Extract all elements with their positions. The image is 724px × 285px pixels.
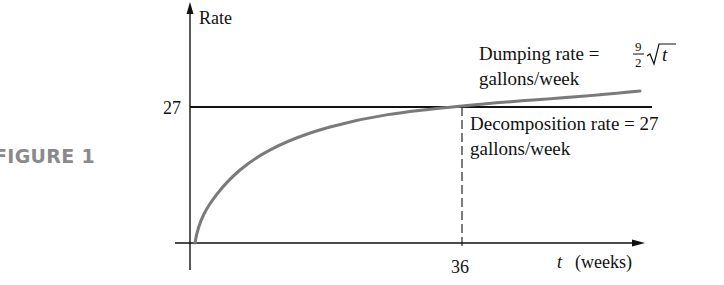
dumping-frac-denominator: 2 (635, 55, 642, 70)
dumping-rate-label: Dumping rate = (479, 43, 599, 64)
decomposition-units: gallons/week (470, 138, 571, 159)
dumping-frac-numerator: 9 (635, 39, 642, 54)
x-axis-arrow-icon (632, 240, 645, 247)
x-tick-36: 36 (451, 257, 469, 277)
x-axis-variable: t (557, 252, 563, 272)
y-tick-27: 27 (163, 98, 181, 118)
rate-chart: Rate 27 36 t (weeks) Dumping rate = 9 2 … (0, 0, 724, 285)
dumping-units: gallons/week (479, 68, 580, 89)
x-axis-unit: (weeks) (575, 252, 632, 273)
y-axis-arrow-icon (187, 2, 194, 14)
dumping-var: t (662, 44, 668, 65)
y-axis-label: Rate (199, 8, 232, 28)
decomposition-rate-label: Decomposition rate = 27 (470, 113, 659, 134)
